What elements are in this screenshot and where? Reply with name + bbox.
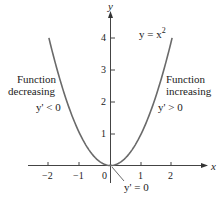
y-axis-arrow-icon — [108, 11, 113, 18]
x-axis-arrow-icon — [201, 163, 208, 168]
y-axis-label: y — [108, 0, 113, 12]
bottom-annotation: y' = 0 — [124, 181, 149, 193]
x-tick-label: 2 — [168, 170, 173, 182]
left-annotation-3: y' < 0 — [36, 101, 61, 113]
chart: y x y = x2 Function decreasing y' < 0 Fu… — [0, 0, 222, 200]
x-axis-label: x — [211, 160, 216, 172]
left-annotation-1: Function — [17, 73, 56, 85]
y-tick-label: 2 — [101, 96, 106, 108]
y-tick-label: 3 — [101, 64, 106, 76]
right-annotation-1: Function — [166, 73, 205, 85]
curve-label: y = x2 — [139, 25, 166, 40]
right-annotation-3: y' > 0 — [158, 101, 183, 113]
leader-line — [112, 167, 124, 181]
x-tick-label: −1 — [73, 170, 84, 182]
left-annotation-2: decreasing — [8, 85, 55, 97]
x-tick-label: −2 — [42, 170, 53, 182]
y-ticks — [111, 38, 115, 134]
right-annotation-2: increasing — [166, 85, 211, 97]
y-tick-label: 1 — [101, 128, 106, 140]
x-tick-label: 0 — [102, 170, 107, 182]
x-tick-label: 1 — [138, 170, 143, 182]
chart-plot — [0, 0, 222, 200]
y-tick-label: 4 — [101, 32, 106, 44]
